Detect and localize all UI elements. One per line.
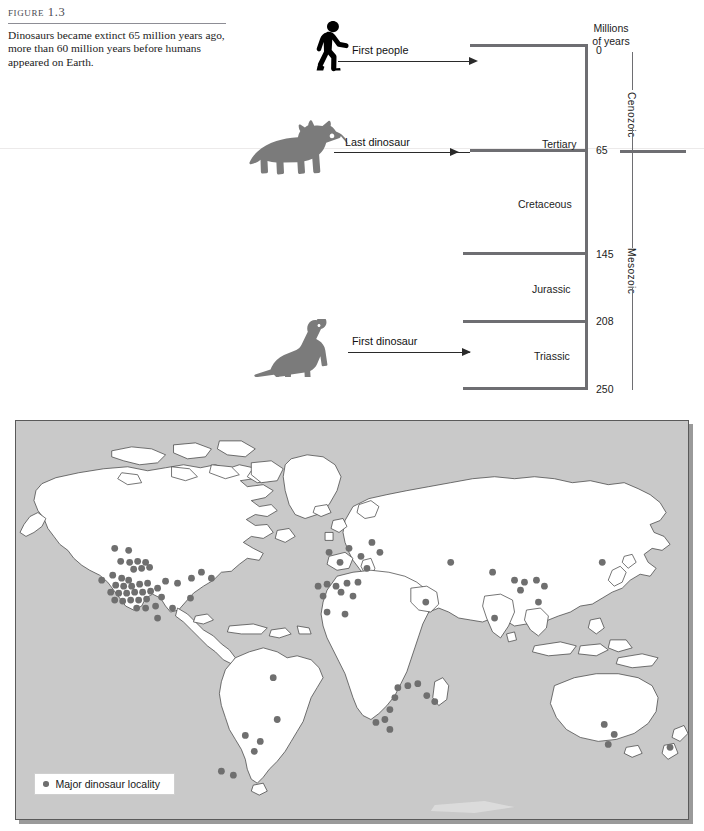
- scale-value-145: 145: [596, 248, 614, 260]
- era-boundary-bar-65: [620, 150, 686, 153]
- period-label-cretaceous: Cretaceous: [518, 198, 572, 210]
- period-label-jurassic: Jurassic: [532, 283, 571, 295]
- map-drop-shadow-right: [689, 424, 693, 824]
- event-label-last-dinosaur: Last dinosaur: [345, 136, 410, 148]
- arrow-line-first-dinosaur: [348, 352, 470, 353]
- map-drop-shadow-bottom: [19, 820, 693, 824]
- scale-value-250: 250: [596, 383, 614, 395]
- tick-bar-208: [463, 320, 588, 323]
- scale-value-0: 0: [596, 44, 602, 56]
- scale-value-65: 65: [596, 144, 608, 156]
- period-label-triassic: Triassic: [534, 350, 570, 362]
- locality-dot-icon: [43, 781, 49, 787]
- period-label-tertiary: Tertiary: [542, 138, 576, 150]
- world-map-figure: Major dinosaur locality: [15, 420, 689, 820]
- arrow-head-first-dinosaur: [462, 348, 471, 356]
- era-rule-cenozoic-upper: [632, 52, 633, 90]
- geologic-timeline-chart: Millions of years First people Last dino…: [0, 0, 704, 410]
- scale-header-line1: Millions: [593, 22, 628, 34]
- event-label-first-dinosaur: First dinosaur: [352, 335, 417, 347]
- era-rule-cenozoic-lower: [632, 128, 633, 150]
- triceratops-silhouette-icon: [244, 116, 356, 186]
- era-rule-mesozoic-lower: [632, 288, 633, 390]
- map-legend: Major dinosaur locality: [34, 773, 175, 795]
- arrow-head-last-dinosaur: [450, 148, 459, 156]
- arrow-head-first-people: [469, 57, 478, 65]
- legend-label: Major dinosaur locality: [56, 778, 160, 790]
- timeline-spine: [585, 44, 588, 390]
- scale-value-208: 208: [596, 315, 614, 327]
- arrow-line-first-people: [338, 61, 472, 62]
- era-rule-mesozoic-upper: [632, 152, 633, 248]
- event-label-first-people: First people: [352, 44, 408, 56]
- tick-bar-250: [463, 387, 588, 390]
- tick-bar-0: [470, 44, 588, 47]
- tick-bar-145: [463, 252, 588, 255]
- world-map-svg: [16, 421, 688, 819]
- sauropod-silhouette-icon: [252, 319, 348, 377]
